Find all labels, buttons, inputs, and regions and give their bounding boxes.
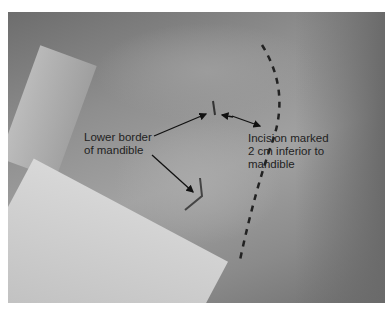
label-line: Incision marked — [248, 132, 329, 145]
label-line: of mandible — [84, 144, 152, 157]
label-lower-border: Lower border of mandible — [84, 131, 152, 157]
label-incision: Incision marked 2 cm inferior to mandibl… — [248, 132, 329, 171]
label-line: Lower border — [84, 131, 152, 144]
label-line: 2 cm inferior to — [248, 145, 329, 158]
annotation-arrows — [0, 0, 391, 311]
label-line: mandible — [248, 158, 329, 171]
